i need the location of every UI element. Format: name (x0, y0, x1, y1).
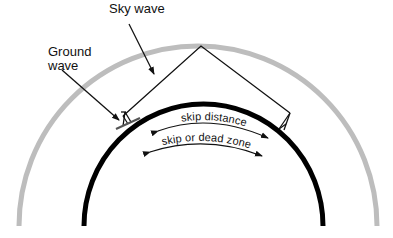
svg-text:skip distance: skip distance (180, 110, 248, 128)
ground-wave-pointer (62, 70, 119, 120)
ground-wave-label-line2: wave (48, 59, 78, 73)
sky-wave-pointer (129, 24, 154, 74)
skip-distance-label: skip distance (180, 110, 248, 128)
skip-dead-zone-label: skip or dead zone (160, 131, 252, 151)
svg-text:skip or dead zone: skip or dead zone (160, 131, 252, 151)
receiver-antenna (279, 113, 290, 130)
sky-wave-label: Sky wave (109, 2, 165, 16)
radio-propagation-diagram: skip distance skip or dead zone (0, 0, 393, 238)
ground-wave-label-line1: Ground (48, 45, 91, 59)
